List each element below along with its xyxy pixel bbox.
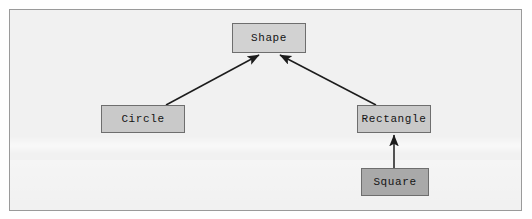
node-square-label: Square (373, 177, 416, 188)
node-rectangle-label: Rectangle (362, 114, 427, 125)
node-circle[interactable]: Circle (101, 105, 185, 133)
node-shape-label: Shape (251, 33, 287, 44)
node-square[interactable]: Square (361, 168, 429, 196)
scanline-band-upper (10, 136, 521, 154)
node-shape[interactable]: Shape (232, 23, 306, 53)
scanline-band-lower (10, 160, 521, 200)
node-rectangle[interactable]: Rectangle (357, 105, 431, 133)
diagram-root: Shape Circle Rectangle Square (0, 0, 532, 219)
node-circle-label: Circle (121, 114, 164, 125)
